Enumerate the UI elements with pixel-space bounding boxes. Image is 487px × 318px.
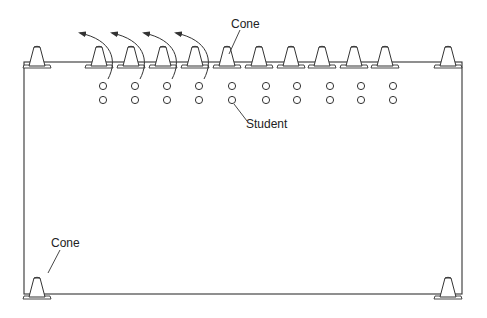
field-boundary bbox=[24, 62, 462, 294]
cone-top-leader bbox=[229, 30, 240, 54]
row-cone bbox=[277, 46, 305, 68]
corner-cone-top-right bbox=[434, 46, 462, 68]
row-cone bbox=[371, 46, 399, 68]
row-cone bbox=[340, 46, 368, 68]
cone-bottom-leader bbox=[48, 250, 60, 273]
cone-bottom-label: Cone bbox=[51, 236, 80, 250]
diagram-canvas: Cone Student Cone bbox=[0, 0, 487, 318]
row-cone bbox=[308, 46, 336, 68]
row-cone bbox=[245, 46, 273, 68]
corner-cone-bottom-left bbox=[23, 277, 51, 299]
row-cone bbox=[213, 46, 241, 68]
cone-top-label: Cone bbox=[231, 17, 260, 31]
students bbox=[99, 82, 396, 103]
cone-row bbox=[85, 46, 399, 68]
corner-cone-bottom-right bbox=[434, 277, 462, 299]
student-label: Student bbox=[246, 117, 288, 131]
corner-cone-top-left bbox=[23, 46, 51, 68]
